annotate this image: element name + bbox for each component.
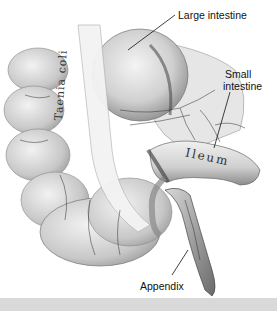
leader-appendix — [172, 250, 188, 275]
bottom-bar — [0, 298, 277, 311]
label-small-intestine-line2: intestine — [223, 80, 262, 92]
label-appendix: Appendix — [140, 280, 184, 292]
label-small-intestine-line1: Small — [225, 68, 251, 80]
cecum-appendix-drawing — [0, 0, 277, 298]
label-large-intestine: Large intestine — [178, 9, 247, 21]
anatomy-illustration: Taenia coli Ileum Large intestine Small … — [0, 0, 277, 298]
